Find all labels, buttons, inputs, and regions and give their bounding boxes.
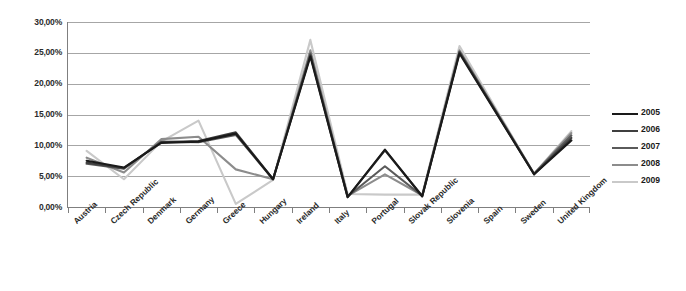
legend-swatch [612, 147, 638, 149]
legend-item: 2005 [612, 106, 682, 123]
line-chart: 30,00%25,00%20,00%15,00%10,00%5,00%0,00%… [0, 0, 686, 291]
x-axis-label: Italy [333, 208, 351, 226]
x-axis-label: United Kingdom [556, 176, 609, 226]
legend-label: 2009 [641, 175, 660, 185]
legend-swatch [612, 130, 638, 132]
legend-swatch [612, 113, 638, 115]
x-axis-label: Sweden [519, 198, 548, 226]
legend-label: 2005 [641, 107, 660, 117]
x-axis-label: Germany [183, 195, 215, 226]
x-axis-label: Ireland [295, 201, 321, 226]
x-axis-labels: AustriaCzech RepublicDenmarkGermanyGreec… [0, 0, 686, 291]
x-axis-label: Greece [221, 200, 248, 226]
legend-swatch [612, 181, 638, 183]
x-axis-label: Slovenia [444, 196, 475, 226]
x-axis-label: Denmark [146, 195, 178, 226]
legend-item: 2006 [612, 123, 682, 140]
legend-item: 2008 [612, 157, 682, 174]
x-axis-label: Austria [72, 200, 99, 226]
legend-item: 2007 [612, 140, 682, 157]
legend-label: 2008 [641, 158, 660, 168]
legend-label: 2006 [641, 124, 660, 134]
legend-item: 2009 [612, 174, 682, 191]
legend-swatch [612, 164, 638, 166]
legend-label: 2007 [641, 141, 660, 151]
x-axis-label: Portugal [370, 196, 401, 226]
x-axis-label: Spain [482, 204, 505, 226]
x-axis-label: Hungary [258, 196, 289, 226]
chart-legend: 20052006200720082009 [612, 106, 682, 191]
